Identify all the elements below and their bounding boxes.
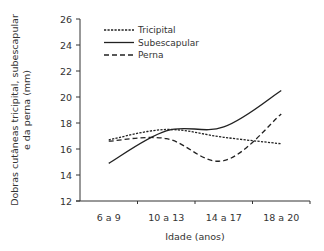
y-axis-title-line: e da perna (mm) <box>21 70 32 150</box>
y-axis-title-line: Dobras cutâneas tricipital, subescapular <box>9 14 20 206</box>
y-tick-label: 12 <box>60 196 72 207</box>
x-tick-label: 18 a 20 <box>263 212 299 223</box>
y-tick-label: 18 <box>60 118 72 129</box>
y-tick-label: 20 <box>60 92 72 103</box>
line-chart: 1214161820222426 6 a 910 a 1314 a 1718 a… <box>0 0 324 251</box>
y-tick-label: 22 <box>60 66 72 77</box>
x-tick-label: 10 a 13 <box>148 212 184 223</box>
y-tick-label: 26 <box>60 14 72 25</box>
y-tick-label: 24 <box>60 40 72 51</box>
legend-label: Subescapular <box>138 38 199 48</box>
y-tick-label: 16 <box>60 144 72 155</box>
x-tick-label: 6 a 9 <box>97 212 121 223</box>
x-tick-label: 14 a 17 <box>206 212 242 223</box>
legend-label: Tricipital <box>137 25 176 35</box>
x-axis-title: Idade (anos) <box>165 231 225 242</box>
series-lines <box>109 91 282 164</box>
series-tricipital <box>109 129 282 143</box>
legend: TricipitalSubescapularPerna <box>104 25 199 60</box>
legend-label: Perna <box>138 50 163 60</box>
series-perna <box>109 114 282 161</box>
y-tick-label: 14 <box>60 170 72 181</box>
x-axis: 6 a 910 a 1314 a 1718 a 20 <box>76 201 310 223</box>
y-axis: 1214161820222426 <box>60 14 80 207</box>
y-axis-title: Dobras cutâneas tricipital, subescapular… <box>9 14 32 206</box>
